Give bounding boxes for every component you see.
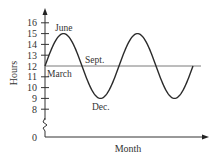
annotation-sept: Sept. — [85, 55, 104, 65]
annotation-march: March — [47, 69, 72, 79]
y-tick-8: 8 — [32, 104, 37, 115]
annotation-dec: Dec. — [92, 102, 110, 112]
y-tick-13: 13 — [27, 50, 37, 61]
x-axis — [45, 135, 209, 140]
y-tick-16: 16 — [27, 17, 37, 28]
y-axis-title: Hours — [8, 61, 19, 86]
y-tick-10: 10 — [27, 82, 37, 93]
y-axis: 16 15 14 13 12 11 10 9 8 0 — [27, 8, 49, 143]
x-axis-arrow-icon — [202, 135, 209, 140]
y-tick-11: 11 — [27, 71, 37, 82]
daylight-hours-chart: 16 15 14 13 12 11 10 9 8 0 Hours Month J… — [0, 0, 217, 162]
y-tick-14: 14 — [27, 39, 37, 50]
y-tick-12: 12 — [27, 61, 37, 72]
y-tick-0: 0 — [32, 132, 37, 143]
y-axis-arrow-icon — [43, 8, 48, 15]
y-tick-15: 15 — [27, 28, 37, 39]
y-tick-9: 9 — [32, 93, 37, 104]
annotation-june: June — [55, 23, 72, 33]
x-axis-title: Month — [115, 143, 142, 154]
